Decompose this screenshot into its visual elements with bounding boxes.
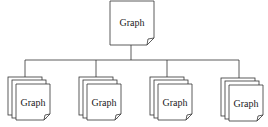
child-label-1: Graph (16, 97, 50, 108)
child-label-2: Graph (87, 97, 121, 108)
child-label-4: Graph (229, 98, 263, 109)
child-label-3: Graph (158, 97, 192, 108)
root-label: Graph (110, 17, 154, 28)
